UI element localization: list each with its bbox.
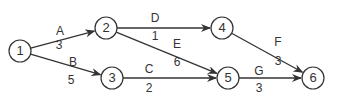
node-label: 1 xyxy=(16,45,23,57)
node-label: 4 xyxy=(218,22,225,34)
edge-arrow-F xyxy=(232,33,303,72)
activity-label: A xyxy=(56,25,64,37)
node-label: 5 xyxy=(224,72,231,84)
duration-label: 2 xyxy=(146,82,153,94)
duration-label: 5 xyxy=(68,74,75,86)
edge-arrow-B xyxy=(31,54,101,75)
diagram-graphics xyxy=(0,0,338,103)
activity-label: C xyxy=(145,63,154,75)
duration-label: 1 xyxy=(152,30,159,42)
duration-label: 3 xyxy=(275,55,282,67)
node-label: 6 xyxy=(309,72,316,84)
activity-label: B xyxy=(69,56,77,68)
activity-network-diagram: A3B5C2D1E6F3G3123456 xyxy=(0,0,338,103)
activity-label: E xyxy=(173,38,181,50)
edge-arrow-E xyxy=(116,32,217,73)
activity-label: D xyxy=(151,12,160,24)
duration-label: 6 xyxy=(174,56,181,68)
activity-label: G xyxy=(254,65,263,77)
duration-label: 3 xyxy=(256,82,263,94)
node-label: 2 xyxy=(102,22,109,34)
node-label: 3 xyxy=(108,72,115,84)
activity-label: F xyxy=(274,36,281,48)
duration-label: 3 xyxy=(56,39,63,51)
